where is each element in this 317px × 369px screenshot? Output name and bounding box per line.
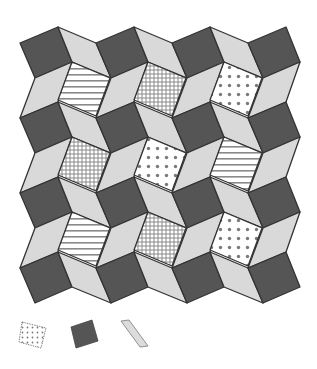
legend-dark-square [71,320,98,348]
tiling-diagram [0,0,317,369]
tile-group [20,27,300,303]
legend [19,320,148,348]
tessellation-figure [0,0,317,369]
legend-light-rhombus [121,320,148,347]
legend-dotted-square [19,322,46,348]
